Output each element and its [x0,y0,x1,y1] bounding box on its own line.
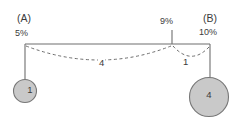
edge-label-long-arc: 4 [98,58,105,68]
percent-label-left: 5% [15,29,28,38]
percent-label-right: 10% [199,28,217,37]
group-label-b: (B) [203,13,217,24]
diagram-canvas: (A) (B) 5% 9% 10% 4 1 1 4 [0,0,238,124]
left-node-label: 1 [22,85,38,95]
edge-label-short-arc: 1 [182,57,189,67]
group-label-a: (A) [17,13,31,24]
short-dashed-arc [173,46,209,56]
right-node-label: 4 [201,90,217,100]
percent-label-middle: 9% [160,17,173,26]
